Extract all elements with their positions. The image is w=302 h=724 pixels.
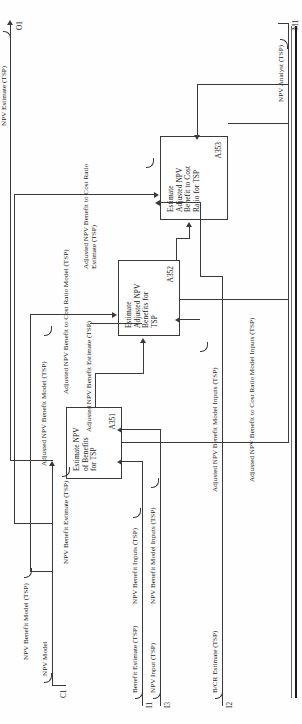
arrow-head-i1 [117, 459, 122, 465]
arrow-line-m1-to-a351 [122, 442, 289, 443]
arrow-line-o1-riser [10, 460, 53, 461]
arrow-head-adj-npv-benefit-estimate [186, 222, 192, 227]
activity-box-a353[interactable]: Estimate Adjusted NPV Benefit to Cost Ra… [160, 136, 228, 220]
arrow-line-m1-to-a353 [228, 123, 289, 124]
arrow-head-adj-inputs [175, 317, 180, 323]
arrow-line-c1 [52, 462, 53, 686]
arrow-line-npv-benefit-model [30, 314, 31, 572]
arrow-line-npv-benefit-model-riser [30, 571, 53, 572]
arrow-line-npv-benefit-estimate-run [143, 342, 144, 374]
arrow-line-npv-benefit-model-drop [30, 314, 112, 315]
arrow-line-i3 [160, 429, 161, 706]
activity-box-a352-id: A352 [166, 266, 175, 282]
arrow-line-i2-run [200, 202, 201, 277]
arrow-line-adj-npv-benefit-model-riser [14, 523, 53, 524]
boundary-label-c1: NPV Model [41, 641, 49, 676]
connector-tick-m1 [280, 39, 288, 49]
page-edge-rule-secondary [291, 26, 292, 698]
arrow-line-c1-drop [52, 685, 66, 686]
connector-tick-adj-bcr-estimate [146, 158, 154, 168]
arrow-head-m1-a353 [194, 135, 200, 140]
arrow-line-m1-a353-riser [197, 84, 289, 85]
arrow-head-npv-benefit-model [112, 312, 117, 318]
internal-label-adj-npv-benefit-model-inputs: Adjusted NPV Benefit Model Inputs (TSP) [211, 367, 219, 492]
connector-tick-npv-benefit-model-inputs [151, 478, 159, 488]
activity-box-a353-id: A353 [214, 142, 223, 158]
arrow-line-adj-npv-benefit-estimate-drop [176, 238, 190, 239]
internal-label-adj-npv-benefit-model: Adjusted NPV Benefit Model (TSP) [40, 361, 48, 466]
arrow-line-npv-benefit-estimate-drop [95, 373, 144, 374]
boundary-code-c1: C1 [60, 690, 68, 698]
page-edge-rule [295, 26, 297, 698]
connector-tick-npv-benefit-inputs [133, 508, 141, 518]
rotated-diagram-wrapper: Estimate NPV of Benefits for TSP A351 Es… [0, 0, 302, 724]
arrow-line-m1-a353-run [197, 84, 198, 136]
arrow-line-adj-inputs-riser [180, 319, 200, 320]
arrow-head-c1 [49, 461, 55, 466]
arrow-line-i1 [142, 461, 143, 706]
boundary-label-m1: NPV Analyst (TSP) [277, 45, 285, 102]
arrow-line-m1 [288, 23, 289, 443]
arrow-head-i3 [117, 427, 122, 433]
internal-label-adj-bcr-estimate: Adjusted NPV Benefit to Cost Ratio Estim… [82, 141, 98, 269]
internal-label-npv-benefit-inputs: NPV Benefit Inputs (TSP) [131, 528, 139, 604]
arrow-line-i2-riser [200, 276, 223, 277]
arrow-head-npv-benefit-estimate [140, 338, 146, 343]
boundary-label-i3: NPV Input (TSP) [149, 643, 157, 693]
boundary-label-i2: B/CR Estimate (TSP) [211, 631, 219, 693]
internal-label-adj-bcr-model: Adjusted NPV Benefit to Cost Ratio Model… [62, 249, 70, 394]
connector-tick-adj-npv-benefit-model-inputs [200, 342, 208, 352]
arrow-line-i2-riser3 [160, 202, 180, 203]
connector-tick-adj-npv-benefit-model [44, 326, 52, 336]
internal-label-adj-npv-benefit-estimate: Adjusted NPV Benefit Estimate (TSP) [85, 321, 93, 432]
arrow-line-adj-npv-benefit-model [14, 194, 15, 524]
arrow-head-adj-npv-benefit-model [154, 192, 159, 198]
arrow-line-i2-riser2 [180, 202, 201, 203]
activity-box-a353-title: Estimate Adjusted NPV Benefit to Cost Ra… [167, 166, 201, 212]
arrow-head-o1 [7, 20, 13, 25]
arrow-line-m1-riser [278, 23, 289, 24]
activity-box-a352[interactable]: Estimate Adjusted NPV Benefits for TSP A… [118, 260, 180, 336]
arrow-line-adj-npv-benefit-estimate [176, 238, 177, 260]
boundary-code-i1: I1 [146, 702, 154, 708]
idef0-canvas: Estimate NPV of Benefits for TSP A351 Es… [0, 0, 302, 724]
arrow-line-i1-riser [122, 461, 143, 462]
activity-box-a351[interactable]: Estimate NPV of Benefits for TSP A351 [66, 407, 122, 479]
arrow-head-i2 [155, 200, 160, 206]
arrow-line-m1-to-a352 [180, 299, 289, 300]
internal-label-adj-bcr-model-inputs: Adjusted NPV Benefit to Cost Ratio Model… [248, 318, 256, 483]
arrow-line-i2 [222, 276, 223, 706]
arrow-line-o1 [10, 23, 11, 461]
activity-box-a351-id: A351 [108, 413, 117, 429]
boundary-label-i1: Benefit Estimate (TSP) [131, 626, 139, 693]
internal-label-npv-benefit-model: NPV Benefit Model (TSP) [22, 583, 30, 660]
activity-box-a351-title: Estimate NPV of Benefits for TSP [73, 427, 99, 471]
arrow-line-npv-benefit-estimate [95, 373, 96, 407]
connector-tick-npv-benefit-model [24, 568, 32, 578]
internal-label-npv-benefit-model-inputs: NPV Benefit Model Inputs (TSP) [149, 507, 157, 604]
boundary-code-o1: O1 [16, 21, 24, 30]
activity-box-a352-title: Estimate Adjusted NPV Benefits for TSP [125, 283, 159, 328]
boundary-code-i3: I3 [164, 702, 172, 708]
diagram-page: Estimate NPV of Benefits for TSP A351 Es… [0, 0, 302, 724]
connector-tick-c1 [44, 673, 52, 683]
boundary-code-i2: I2 [226, 702, 234, 708]
arrow-line-adj-npv-benefit-estimate-run [189, 225, 190, 239]
internal-label-npv-benefit-estimate: NPV Benefit Estimate (TSP) [62, 481, 70, 564]
boundary-label-o1: NPV Estimate (TSP) [0, 66, 8, 126]
arrow-line-i3-riser [122, 429, 161, 430]
arrow-line-adj-est-branch [90, 323, 142, 324]
